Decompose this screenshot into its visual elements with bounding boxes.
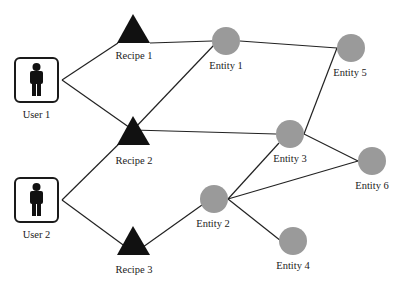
circle-icon <box>337 34 365 62</box>
edge-user1-recipe1 <box>62 43 118 80</box>
recipe-node-2: Recipe 2 <box>115 116 152 166</box>
triangle-icon <box>117 226 150 255</box>
edge-entity3-entity6 <box>304 134 358 161</box>
entity-node-1: Entity 1 <box>209 27 243 71</box>
entity-node-2: Entity 2 <box>196 185 230 229</box>
edge-entity5-entity3 <box>304 48 337 134</box>
user-label: User 2 <box>23 229 51 240</box>
edge-recipe1-entity1 <box>150 41 212 43</box>
entity-node-4: Entity 4 <box>276 227 310 271</box>
edge-entity2-entity6 <box>228 161 358 199</box>
user-label: User 1 <box>23 109 51 120</box>
entity-label: Entity 2 <box>196 218 230 229</box>
edge-user2-recipe3 <box>62 200 130 250</box>
circle-icon <box>212 27 240 55</box>
entity-node-3: Entity 3 <box>273 120 307 164</box>
edge-recipe2-entity3 <box>133 130 276 134</box>
recipe-label: Recipe 3 <box>115 264 152 275</box>
entity-label: Entity 1 <box>209 60 243 71</box>
user-recipe-entity-graph: User 1 User 2 Recipe 1 Recipe 2 Recipe 3… <box>0 0 404 287</box>
entity-label: Entity 6 <box>355 180 389 191</box>
triangle-icon <box>117 14 150 43</box>
edge-recipe3-entity2 <box>136 205 202 252</box>
circle-icon <box>358 147 386 175</box>
entity-label: Entity 5 <box>333 67 367 78</box>
edge-entity1-entity5 <box>240 41 337 48</box>
entity-label: Entity 4 <box>276 260 310 271</box>
user-node-2: User 2 <box>15 178 58 240</box>
user-node-1: User 1 <box>15 58 58 120</box>
edge-entity2-entity4 <box>228 199 281 241</box>
recipe-label: Recipe 1 <box>115 50 152 61</box>
circle-icon <box>279 227 307 255</box>
entity-label: Entity 3 <box>273 153 307 164</box>
recipe-label: Recipe 2 <box>115 155 152 166</box>
edge-user1-recipe2 <box>62 80 133 130</box>
edge-entity2-entity3 <box>228 143 279 199</box>
entity-node-5: Entity 5 <box>333 34 367 78</box>
recipe-node-1: Recipe 1 <box>115 14 152 61</box>
circle-icon <box>200 185 228 213</box>
circle-icon <box>276 120 304 148</box>
recipe-node-3: Recipe 3 <box>115 226 152 275</box>
entity-node-6: Entity 6 <box>355 147 389 191</box>
